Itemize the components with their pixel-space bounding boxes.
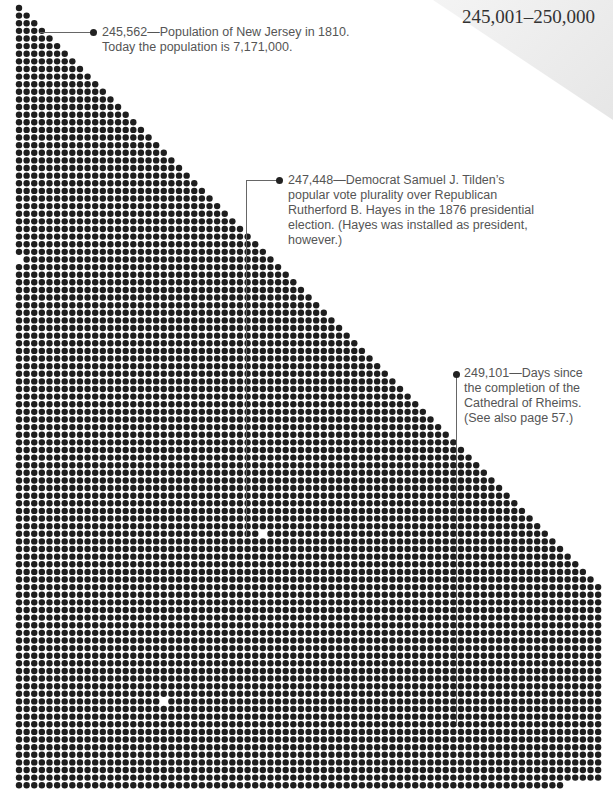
annotation-1: 245,562—Population of New Jersey in 1810… <box>102 25 349 55</box>
annotation-2: 247,448—Democrat Samuel J. Tilden’s popu… <box>288 173 534 248</box>
bullet-icon-3 <box>453 371 460 378</box>
leader-line-1 <box>40 32 92 33</box>
annotation-3-line-4: (See also page 57.) <box>464 411 583 426</box>
annotation-2-line-1: 247,448—Democrat Samuel J. Tilden’s <box>288 173 534 188</box>
annotation-2-line-5: however.) <box>288 233 534 248</box>
bullet-icon-1 <box>90 29 97 36</box>
annotation-3-line-3: Cathedral of Rheims. <box>464 396 583 411</box>
annotation-1-line-1: 245,562—Population of New Jersey in 1810… <box>102 25 349 40</box>
annotation-2-line-3: Rutherford B. Hayes in the 1876 presiden… <box>288 203 534 218</box>
leader-line-3 <box>456 374 457 726</box>
bullet-icon-2 <box>276 177 283 184</box>
leader-line-2-vertical <box>246 180 247 536</box>
annotation-1-line-2: Today the population is 7,171,000. <box>102 40 349 55</box>
annotation-3-line-1: 249,101—Days since <box>464 366 583 381</box>
annotation-2-line-4: election. (Hayes was installed as presid… <box>288 218 534 233</box>
annotation-3-line-2: the completion of the <box>464 381 583 396</box>
leader-line-2-horizontal <box>246 180 278 181</box>
annotation-2-line-2: popular vote plurality over Republican <box>288 188 534 203</box>
annotation-3: 249,101—Days since the completion of the… <box>464 366 583 426</box>
